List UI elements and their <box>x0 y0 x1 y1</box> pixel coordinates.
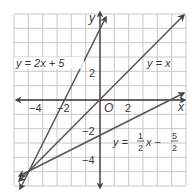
equation-label-y-equals-x: y = x <box>146 57 171 69</box>
svg-text:1: 1 <box>138 131 143 141</box>
origin-label: O <box>104 101 113 115</box>
svg-text:2: 2 <box>172 143 177 153</box>
svg-text:y =: y = <box>112 136 129 148</box>
x-tick-neg4: −4 <box>29 102 42 114</box>
line-y-half-x-minus-5-halves <box>19 93 184 176</box>
x-tick-neg2: −2 <box>57 102 70 114</box>
y-tick-neg4: −4 <box>82 154 95 166</box>
y-axis-label: y <box>88 11 96 25</box>
y-tick-neg2: −2 <box>82 125 95 137</box>
coordinate-plane: y x O −4 −2 2 2 −2 −4 y = 2x + 5 y = x y… <box>0 0 192 193</box>
svg-text:x −: x − <box>145 136 162 148</box>
svg-text:2: 2 <box>138 143 143 153</box>
equation-label-half-x-minus-5-halves: y = 1 2 x − 5 2 <box>112 131 178 153</box>
x-axis-label: x <box>177 100 185 114</box>
y-tick-2: 2 <box>89 67 95 79</box>
x-tick-2: 2 <box>125 102 131 114</box>
svg-text:5: 5 <box>172 131 177 141</box>
equation-label-2x-plus-5: y = 2x + 5 <box>15 57 65 69</box>
line-y-equals-x <box>19 15 184 181</box>
